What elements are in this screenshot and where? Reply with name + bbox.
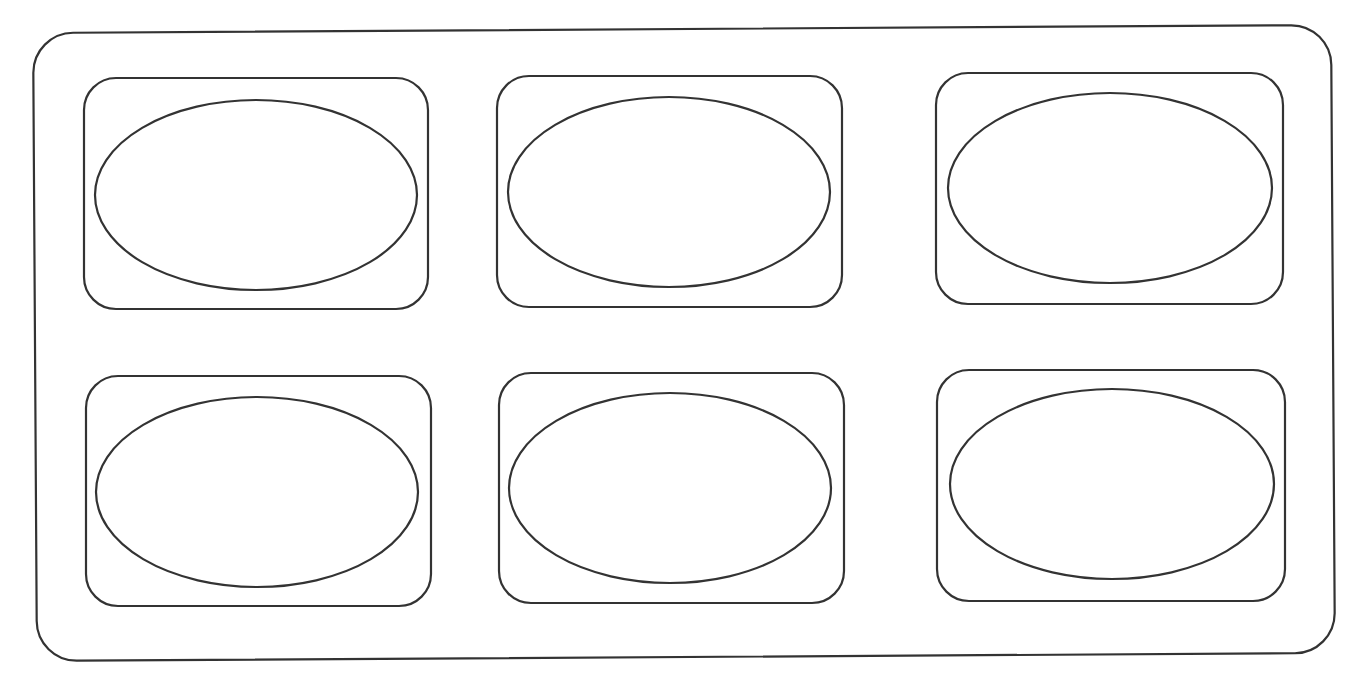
outer-rounded-frame [33,25,1335,661]
oval-shape [950,389,1274,579]
oval-shape [948,93,1272,283]
card-2 [497,76,842,307]
card-3 [936,73,1283,304]
card-6 [937,370,1285,601]
oval-shape [509,393,831,583]
card-grid [84,73,1285,606]
rounded-card-frame [936,73,1283,304]
rounded-card-frame [937,370,1285,601]
diagram-canvas [0,0,1365,677]
oval-shape [95,100,417,290]
oval-shape [96,397,418,587]
rounded-card-frame [86,376,431,606]
rounded-card-frame [499,373,844,603]
card-4 [86,376,431,606]
rounded-card-frame [84,78,428,309]
card-1 [84,78,428,309]
rounded-card-frame [497,76,842,307]
card-5 [499,373,844,603]
oval-shape [508,97,830,287]
